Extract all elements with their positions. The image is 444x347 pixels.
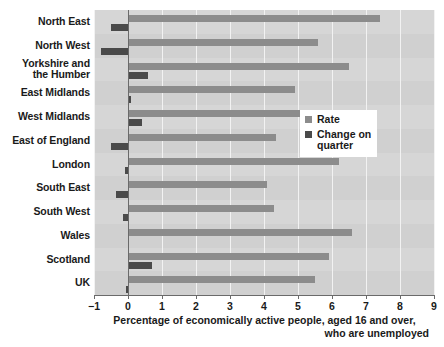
bar-rate: [128, 15, 380, 22]
x-axis-tick: [264, 295, 265, 299]
y-axis-label: Scotland: [0, 254, 90, 266]
y-axis-label-line: London: [0, 159, 90, 171]
x-axis-tick-label: 3: [218, 300, 242, 312]
x-axis-tick-label: 8: [388, 300, 412, 312]
x-axis-tick-label: 0: [116, 300, 140, 312]
y-axis-label-line: North East: [0, 16, 90, 28]
bar-rate: [128, 63, 349, 70]
bar-change-on-quarter: [111, 24, 128, 31]
x-axis-tick: [128, 295, 129, 299]
bar-rate: [128, 229, 352, 236]
x-axis-tick: [332, 295, 333, 299]
x-axis-tick: [196, 295, 197, 299]
y-axis-label: South West: [0, 206, 90, 218]
x-axis-tick: [94, 295, 95, 299]
plot-area: [94, 10, 434, 295]
gridline: [400, 10, 401, 295]
gridline: [434, 10, 435, 295]
y-axis-label-line: Scotland: [0, 254, 90, 266]
bar-change-on-quarter: [111, 143, 128, 150]
y-axis-label: UK: [0, 277, 90, 289]
y-axis-label-line: North West: [0, 40, 90, 52]
y-axis-label-line: South West: [0, 206, 90, 218]
x-axis-tick-label: −1: [82, 300, 106, 312]
bar-rate: [128, 253, 329, 260]
legend-item[interactable]: Change on quarter: [305, 129, 371, 152]
bar-rate: [128, 158, 339, 165]
legend: RateChange on quarter: [300, 110, 377, 157]
bar-rate: [128, 276, 315, 283]
x-axis-title: Percentage of economically active people…: [94, 314, 435, 340]
zero-baseline: [128, 10, 129, 295]
y-axis-label-line: West Midlands: [0, 111, 90, 123]
x-axis-tick-label: 2: [184, 300, 208, 312]
y-axis-label: South East: [0, 182, 90, 194]
x-axis-tick-label: 5: [286, 300, 310, 312]
y-axis-label: North West: [0, 40, 90, 52]
x-axis-tick: [434, 295, 435, 299]
chart-container: North EastNorth WestYorkshire andthe Hum…: [0, 0, 444, 347]
y-axis-label-line: the Humber: [0, 69, 90, 81]
x-axis-title-line2: who are unemployed: [94, 327, 435, 340]
legend-label: Change on quarter: [317, 129, 371, 152]
bar-rate: [128, 205, 274, 212]
legend-swatch-icon: [305, 116, 312, 123]
x-axis-tick: [366, 295, 367, 299]
x-axis-tick: [162, 295, 163, 299]
y-axis-label-line: South East: [0, 182, 90, 194]
x-axis-tick-label: 7: [354, 300, 378, 312]
y-axis-label: Yorkshire andthe Humber: [0, 58, 90, 81]
y-axis-category-labels: North EastNorth WestYorkshire andthe Hum…: [0, 10, 90, 295]
y-axis-label: London: [0, 159, 90, 171]
bar-rate: [128, 134, 276, 141]
x-axis-tick: [230, 295, 231, 299]
bar-change-on-quarter: [128, 119, 142, 126]
y-axis-label: North East: [0, 16, 90, 28]
x-axis-tick-label: 9: [422, 300, 444, 312]
gridline: [94, 10, 95, 295]
y-axis-label: West Midlands: [0, 111, 90, 123]
y-axis-label: Wales: [0, 230, 90, 242]
x-axis-tick: [400, 295, 401, 299]
legend-swatch-icon: [305, 131, 312, 138]
y-axis-label-line: East Midlands: [0, 87, 90, 99]
y-axis-label-line: Wales: [0, 230, 90, 242]
bar-change-on-quarter: [101, 48, 128, 55]
x-axis-tick-label: 6: [320, 300, 344, 312]
legend-label: Rate: [317, 114, 340, 126]
y-axis-label: East of England: [0, 135, 90, 147]
y-axis-label: East Midlands: [0, 87, 90, 99]
bar-change-on-quarter: [128, 72, 148, 79]
legend-item[interactable]: Rate: [305, 114, 371, 126]
x-axis-tick-label: 4: [252, 300, 276, 312]
bar-change-on-quarter: [116, 191, 128, 198]
y-axis-label-line: East of England: [0, 135, 90, 147]
bar-rate: [128, 86, 295, 93]
bar-change-on-quarter: [128, 262, 152, 269]
y-axis-label-line: UK: [0, 277, 90, 289]
x-axis-tick: [298, 295, 299, 299]
x-axis-title-line1: Percentage of economically active people…: [113, 314, 415, 326]
bar-rate: [128, 39, 318, 46]
bar-rate: [128, 181, 267, 188]
x-axis-tick-label: 1: [150, 300, 174, 312]
